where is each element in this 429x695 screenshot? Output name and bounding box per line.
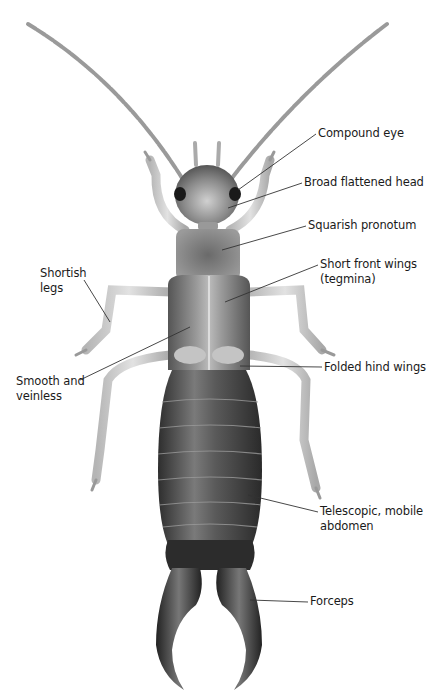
label-shortish-legs: Shortish legs (40, 266, 87, 296)
antenna-right (232, 24, 387, 178)
pronotum (176, 229, 240, 281)
abdomen (158, 370, 262, 545)
forceps (156, 568, 262, 690)
label-forceps: Forceps (310, 594, 354, 609)
antenna-left (28, 24, 182, 178)
label-squarish-pronotum: Squarish pronotum (308, 218, 416, 233)
label-broad-flattened-head: Broad flattened head (304, 175, 424, 190)
folded-hind-wings (174, 346, 206, 364)
compound-eye-left (174, 187, 186, 201)
label-compound-eye: Compound eye (318, 126, 404, 141)
label-folded-hind-wings: Folded hind wings (324, 360, 426, 375)
label-telescopic-mobile-abdomen: Telescopic, mobile abdomen (320, 504, 423, 534)
label-short-front-wings: Short front wings (tegmina) (320, 257, 417, 287)
earwig-illustration (0, 0, 429, 695)
terminal-segment (165, 540, 254, 570)
earwig-diagram: Compound eye Broad flattened head Squari… (0, 0, 429, 695)
label-smooth-and-veinless: Smooth and veinless (16, 374, 85, 404)
